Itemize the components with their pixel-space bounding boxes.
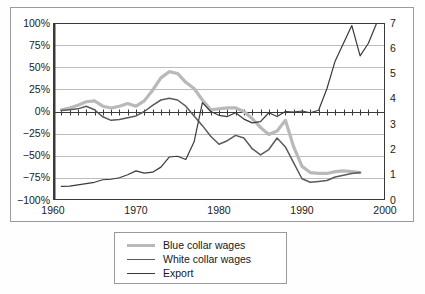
legend-item-white-collar: White collar wages <box>115 252 286 266</box>
x-tick-1980: 1980 <box>199 204 239 216</box>
y-left-tick-25: 25% <box>11 83 50 95</box>
legend-label-white-collar: White collar wages <box>163 252 251 266</box>
y-left-tick--50: −50% <box>11 149 50 161</box>
y-right-tick-4: 4 <box>390 92 396 104</box>
legend-label-blue-collar: Blue collar wages <box>163 238 245 252</box>
legend-swatch-export <box>127 273 155 274</box>
x-tick-1970: 1970 <box>116 204 156 216</box>
y-right-tick-5: 5 <box>390 67 396 79</box>
plot-area <box>53 23 385 200</box>
y-left-tick--25: −25% <box>11 127 50 139</box>
y-left-tick-100: 100% <box>11 17 50 29</box>
chart-screenshot: 100%75%50%25%0%−25%−50%−75%−100% 7654321… <box>0 0 425 294</box>
legend-swatch-blue-collar <box>127 244 155 247</box>
legend-swatch-white-collar <box>127 259 155 260</box>
y-left-tick-75: 75% <box>11 39 50 51</box>
legend-item-blue-collar: Blue collar wages <box>115 238 286 252</box>
y-right-tick-3: 3 <box>390 118 396 130</box>
legend: Blue collar wages White collar wages Exp… <box>114 232 287 284</box>
x-tick-2000: 2000 <box>365 204 405 216</box>
plot-svg <box>53 23 385 200</box>
x-tick-1990: 1990 <box>282 204 322 216</box>
y-left-tick-50: 50% <box>11 61 50 73</box>
legend-item-export: Export <box>115 266 286 280</box>
chart-frame: 100%75%50%25%0%−25%−50%−75%−100% 7654321… <box>10 7 414 222</box>
x-tick-1960: 1960 <box>33 204 73 216</box>
data-series-group <box>61 23 376 186</box>
y-right-tick-1: 1 <box>390 168 396 180</box>
legend-label-export: Export <box>163 266 193 280</box>
y-right-tick-2: 2 <box>390 143 396 155</box>
y-right-tick-7: 7 <box>390 17 396 29</box>
y-left-tick-0: 0% <box>11 105 50 117</box>
y-right-tick-6: 6 <box>390 42 396 54</box>
y-left-tick--75: −75% <box>11 171 50 183</box>
